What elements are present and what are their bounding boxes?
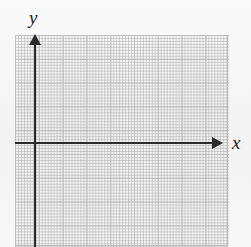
x-axis-line: [15, 142, 220, 144]
y-axis-arrow-icon: [29, 34, 41, 45]
x-axis-label: x: [232, 133, 240, 152]
y-axis-line: [34, 45, 36, 247]
y-axis-label: y: [29, 8, 37, 27]
x-axis-arrow-icon: [212, 137, 223, 149]
graph-figure: y x: [0, 0, 251, 247]
grid-border: [15, 35, 228, 246]
coordinate-grid: [15, 35, 229, 247]
